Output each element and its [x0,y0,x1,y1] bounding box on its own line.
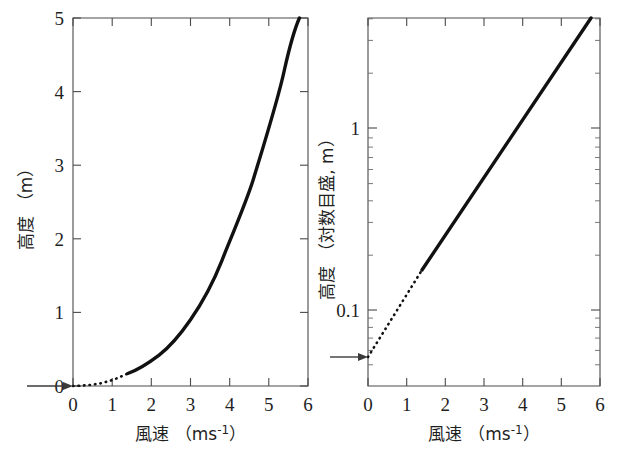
left-xaxis-label: 風速（ms-1） [135,423,246,444]
right-curve-extrapolated [368,270,422,357]
left-ytick-label-4: 4 [55,82,65,103]
left-xtick-label-4: 4 [225,394,235,415]
left-yaxis-label: 高度（m） [16,160,36,251]
right-yaxis-label: 高度（対数目盛, m） [317,130,337,299]
right-curve-measured [422,18,591,270]
left-panel-x-ticks-top [73,18,308,26]
left-panel: 0 1 2 3 4 5 0 1 2 3 4 5 6 [16,8,313,444]
right-z0-arrow [330,353,368,361]
right-panel: 0.1 1 0 1 2 3 4 5 6 風速（ms-1） 高度（対数目盛, [317,18,605,444]
right-panel-x-ticks-top [368,18,600,26]
left-xtick-label-1: 1 [107,394,117,415]
right-panel-y-ticks-minor [368,19,600,365]
left-xtick-label-3: 3 [186,394,196,415]
left-panel-x-ticks [73,378,308,386]
right-xtick-label-6: 6 [595,394,605,415]
right-xtick-label-1: 1 [402,394,412,415]
right-panel-frame [368,18,600,386]
left-curve-extrapolated [73,374,128,387]
left-ytick-label-3: 3 [55,155,65,176]
figure-svg: 0 1 2 3 4 5 0 1 2 3 4 5 6 [0,0,619,458]
right-panel-y-ticks-major [368,128,600,310]
right-xaxis-label: 風速（ms-1） [428,423,539,444]
left-xtick-label-5: 5 [264,394,274,415]
right-xtick-label-5: 5 [557,394,567,415]
left-ytick-label-2: 2 [55,229,65,250]
right-panel-x-ticks [368,378,600,386]
left-ytick-label-1: 1 [55,302,65,323]
right-ytick-label-0p1: 0.1 [336,300,360,321]
left-z0-arrow [27,382,73,390]
left-panel-y-ticks-right [300,18,308,386]
right-ytick-label-1: 1 [351,118,361,139]
left-xtick-label-6: 6 [303,394,313,415]
right-xtick-label-3: 3 [479,394,489,415]
right-xtick-label-4: 4 [518,394,528,415]
left-xtick-label-0: 0 [68,394,78,415]
left-panel-frame [73,18,308,386]
left-xtick-label-2: 2 [147,394,157,415]
left-ytick-label-5: 5 [55,8,65,29]
left-panel-y-ticks [73,18,81,386]
figure-container: 0 1 2 3 4 5 0 1 2 3 4 5 6 [0,0,619,458]
right-xtick-label-2: 2 [441,394,451,415]
right-xtick-label-0: 0 [363,394,373,415]
left-curve-measured-smooth [128,18,300,374]
